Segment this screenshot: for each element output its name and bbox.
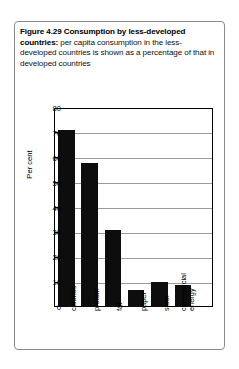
- bar-slot: [105, 108, 122, 307]
- y-axis-title: Per cent: [25, 135, 34, 195]
- x-tick-label: protein: [93, 288, 101, 311]
- x-tick-label-line: protein: [92, 288, 101, 311]
- bar-slot: [151, 108, 168, 307]
- y-tick-mark: [54, 157, 58, 158]
- y-tick-mark: [54, 282, 58, 283]
- x-tick-label-line: commercial: [179, 273, 188, 311]
- x-tick-label-line: fat: [115, 303, 124, 311]
- y-tick-mark: [54, 182, 58, 183]
- y-tick-mark: [54, 207, 58, 208]
- x-tick-label: calories: [70, 286, 78, 311]
- x-tick-label: paper: [140, 292, 148, 311]
- figure-caption: Figure 4.29 Consumption by less-develope…: [20, 27, 218, 69]
- y-tick-mark: [54, 257, 58, 258]
- x-tick-label: fat: [116, 303, 124, 311]
- figure-panel: Figure 4.29 Consumption by less-develope…: [14, 21, 225, 350]
- y-tick-label: 80: [35, 104, 61, 113]
- x-tick-label-line: energy: [188, 273, 196, 311]
- x-tick-label-line: calories: [69, 286, 78, 311]
- y-tick-mark: [54, 232, 58, 233]
- x-tick-label: commercialenergy: [180, 273, 197, 311]
- y-tick-label: 0: [35, 303, 61, 312]
- bar[interactable]: [81, 163, 98, 307]
- bar-chart: Per cent 01020304050607080 caloriesprote…: [15, 82, 226, 350]
- x-tick-label: steel: [163, 295, 171, 311]
- y-tick-mark: [54, 132, 58, 133]
- x-tick-label-line: steel: [162, 295, 171, 311]
- bar-slot: [81, 108, 98, 307]
- bar-slot: [128, 108, 145, 307]
- bar[interactable]: [105, 230, 122, 307]
- x-tick-label-line: paper: [139, 292, 148, 311]
